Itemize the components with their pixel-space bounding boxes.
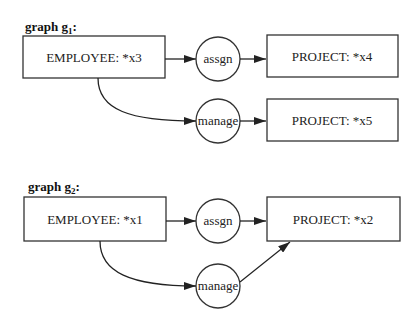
employee-node: EMPLOYEE: *x1	[24, 197, 166, 241]
graph-g2-title: graph g2:	[28, 179, 80, 196]
graph-g2: graph g2: EMPLOYEE: *x1 assgn PROJECT: *…	[24, 179, 400, 308]
manage-relation: manage	[196, 264, 240, 308]
edge-employee-manage	[100, 241, 196, 286]
edge-employee-manage	[98, 78, 196, 121]
svg-text:assgn: assgn	[204, 51, 233, 66]
svg-text:assgn: assgn	[204, 213, 233, 228]
conceptual-graphs-diagram: graph g1: EMPLOYEE: *x3 assgn PROJECT: *…	[0, 0, 420, 324]
assgn-relation: assgn	[196, 37, 240, 81]
svg-text:EMPLOYEE: *x3: EMPLOYEE: *x3	[46, 50, 142, 65]
svg-text:manage: manage	[198, 278, 239, 293]
svg-text:PROJECT: *x5: PROJECT: *x5	[292, 113, 373, 128]
svg-text:PROJECT: *x4: PROJECT: *x4	[292, 49, 373, 64]
assgn-relation: assgn	[196, 199, 240, 243]
edge-manage-project	[240, 242, 290, 282]
manage-relation: manage	[196, 99, 240, 143]
project-x4-node: PROJECT: *x4	[267, 35, 398, 77]
svg-text:manage: manage	[198, 113, 239, 128]
employee-node: EMPLOYEE: *x3	[23, 36, 165, 78]
graph-g1-title: graph g1:	[25, 19, 77, 36]
graph-g1: graph g1: EMPLOYEE: *x3 assgn PROJECT: *…	[23, 19, 398, 143]
svg-text:PROJECT: *x2: PROJECT: *x2	[293, 212, 374, 227]
svg-text:EMPLOYEE: *x1: EMPLOYEE: *x1	[47, 212, 143, 227]
project-x5-node: PROJECT: *x5	[267, 99, 398, 141]
project-x2-node: PROJECT: *x2	[267, 197, 400, 241]
